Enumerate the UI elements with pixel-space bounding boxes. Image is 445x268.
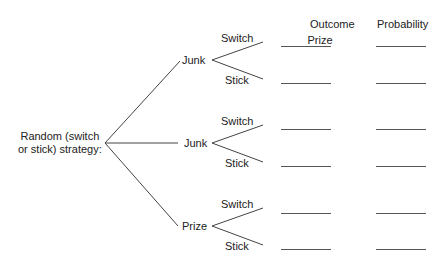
option-label-switch: Switch bbox=[221, 198, 253, 211]
probability-blank[interactable] bbox=[376, 213, 426, 214]
option-label-switch: Switch bbox=[221, 115, 253, 128]
option-label-stick: Stick bbox=[225, 157, 249, 170]
branch-label: Junk bbox=[184, 137, 207, 150]
probability-header: Probability bbox=[377, 18, 428, 31]
probability-blank[interactable] bbox=[376, 129, 426, 130]
outcome-blank[interactable] bbox=[281, 213, 331, 214]
outcome-blank[interactable] bbox=[281, 83, 331, 84]
probability-blank[interactable] bbox=[376, 83, 426, 84]
probability-blank[interactable] bbox=[376, 166, 426, 167]
probability-blank[interactable] bbox=[376, 46, 426, 47]
outcome-blank[interactable] bbox=[281, 129, 331, 130]
probability-blank[interactable] bbox=[376, 249, 426, 250]
branch-label: Junk bbox=[182, 54, 205, 67]
outcome-blank[interactable] bbox=[281, 249, 331, 250]
outcome-blank[interactable] bbox=[281, 46, 331, 47]
option-label-stick: Stick bbox=[225, 74, 249, 87]
root-label: Random (switch or stick) strategy: bbox=[18, 130, 102, 156]
outcome-header: Outcome bbox=[310, 18, 355, 31]
branch-label: Prize bbox=[182, 220, 207, 233]
option-label-stick: Stick bbox=[225, 240, 249, 253]
option-label-switch: Switch bbox=[221, 32, 253, 45]
outcome-blank[interactable] bbox=[281, 166, 331, 167]
